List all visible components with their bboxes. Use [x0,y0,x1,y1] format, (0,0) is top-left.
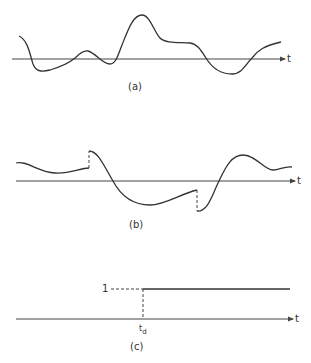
panel-c: t 1 td (c) [16,283,299,352]
level-label: 1 [102,283,108,294]
figure: t (a) t (b) t 1 td (c) [0,0,311,363]
caption-c: (c) [130,341,143,352]
axis-label-b: t [297,175,301,186]
panel-a: t (a) [12,15,291,92]
waveform-b-segment-3 [197,155,292,211]
panel-b: t (b) [16,151,301,230]
waveform-a [19,15,281,74]
caption-b: (b) [129,219,143,230]
axis-label-a: t [287,53,291,64]
axis-label-c: t [295,313,299,324]
caption-a: (a) [128,81,142,92]
waveform-b-segment-2 [89,151,197,205]
waveform-b-segment-1 [16,163,89,174]
step-time-label: td [139,324,147,336]
